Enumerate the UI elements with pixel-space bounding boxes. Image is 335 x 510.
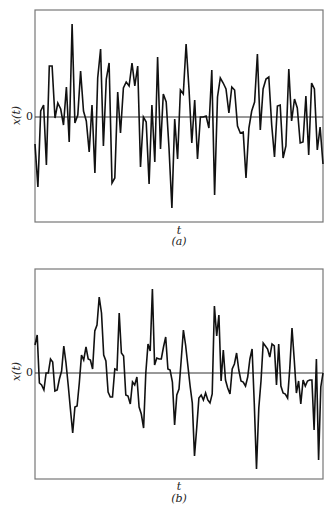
chart-b-zero-tick: 0 — [26, 366, 33, 379]
chart-b-signal-line — [35, 289, 323, 469]
chart-b-plot-area — [0, 0, 335, 510]
chart-panel-b: x(t) 0 t (b) — [0, 0, 335, 510]
chart-b-caption: (b) — [159, 492, 199, 505]
chart-b-ylabel: x(t) — [10, 362, 23, 381]
